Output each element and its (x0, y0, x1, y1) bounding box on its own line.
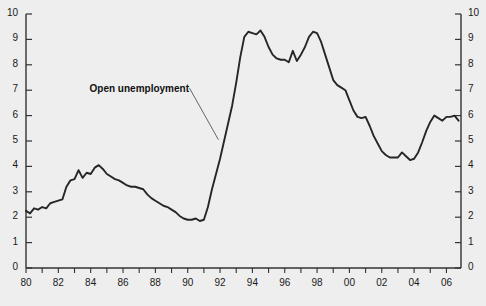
y-axis-tick-label-right: 9 (468, 32, 484, 43)
y-axis-tick-label-right: 2 (468, 210, 484, 221)
x-axis-tick-label: 88 (145, 277, 165, 288)
y-axis-tick-label-left: 1 (2, 236, 18, 247)
x-axis-tick-label: 96 (275, 277, 295, 288)
x-axis-tick-label: 90 (178, 277, 198, 288)
y-axis-tick-label-right: 8 (468, 58, 484, 69)
y-axis-tick-label-left: 0 (2, 261, 18, 272)
x-axis-tick-label: 98 (307, 277, 327, 288)
y-axis-tick-label-right: 0 (468, 261, 484, 272)
y-axis-tick-label-right: 10 (468, 7, 484, 18)
x-axis-tick-label: 84 (81, 277, 101, 288)
axes-group (26, 14, 461, 273)
y-axis-tick-label-right: 6 (468, 109, 484, 120)
y-axis-tick-label-left: 7 (2, 83, 18, 94)
y-axis-tick-label-left: 9 (2, 32, 18, 43)
x-axis-tick-label: 80 (16, 277, 36, 288)
chart-plot-area (0, 0, 486, 306)
x-axis-tick-label: 82 (48, 277, 68, 288)
y-axis-tick-label-left: 2 (2, 210, 18, 221)
y-axis-tick-label-right: 5 (468, 134, 484, 145)
y-axis-tick-label-right: 1 (468, 236, 484, 247)
y-axis-tick-label-left: 5 (2, 134, 18, 145)
annotation-leader-line (190, 88, 219, 140)
x-axis-tick-label: 04 (404, 277, 424, 288)
y-axis-tick-label-left: 8 (2, 58, 18, 69)
x-axis-tick-label: 86 (113, 277, 133, 288)
data-series-group (26, 31, 459, 222)
x-axis-tick-label: 00 (339, 277, 359, 288)
y-axis-tick-label-left: 6 (2, 109, 18, 120)
x-axis-tick-label: 02 (372, 277, 392, 288)
y-axis-tick-label-right: 7 (468, 83, 484, 94)
x-axis-tick-label: 06 (436, 277, 456, 288)
y-axis-tick-label-left: 4 (2, 159, 18, 170)
y-axis-tick-label-left: 10 (2, 7, 18, 18)
y-axis-tick-label-right: 4 (468, 159, 484, 170)
y-axis-tick-label-right: 3 (468, 185, 484, 196)
x-axis-tick-label: 92 (210, 277, 230, 288)
unemployment-chart: 0011223344556677889910108082848688909294… (0, 0, 486, 306)
series-annotation-label: Open unemployment (90, 83, 189, 94)
y-axis-tick-label-left: 3 (2, 185, 18, 196)
x-axis-tick-label: 94 (242, 277, 262, 288)
